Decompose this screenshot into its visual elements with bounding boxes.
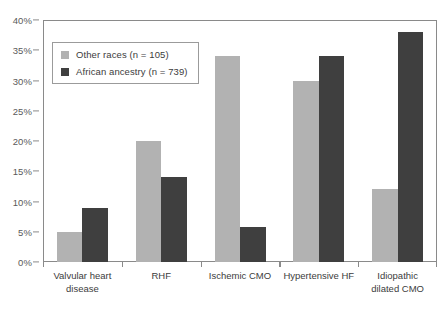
bar — [293, 81, 319, 263]
bar — [82, 208, 108, 262]
y-axis-tick — [33, 19, 39, 20]
legend-label-african-ancestry: African ancestry (n = 739) — [76, 66, 188, 77]
y-axis-label: 0% — [18, 257, 32, 268]
bar — [240, 227, 266, 262]
x-axis-tick — [279, 262, 280, 267]
y-axis-label: 10% — [13, 196, 32, 207]
y-axis-tick — [33, 140, 39, 141]
x-axis-tick — [201, 262, 202, 267]
y-axis-tick — [33, 171, 39, 172]
y-axis-tick — [33, 201, 39, 202]
y-axis-tick — [33, 50, 39, 51]
y-axis-label: 5% — [18, 226, 32, 237]
bar — [372, 189, 398, 262]
x-axis-tick — [43, 262, 44, 267]
y-axis-label: 40% — [13, 15, 32, 26]
y-axis-label: 25% — [13, 105, 32, 116]
legend-label-other-races: Other races (n = 105) — [76, 49, 169, 60]
x-axis-tick — [436, 262, 437, 267]
y-axis: 0%5%10%15%20%25%30%35%40% — [0, 0, 43, 313]
legend-swatch-african-ancestry — [61, 68, 69, 76]
y-axis-label: 35% — [13, 45, 32, 56]
bar — [136, 141, 162, 262]
bar-chart: 0%5%10%15%20%25%30%35%40% Valvular heart… — [0, 0, 447, 313]
bar — [161, 177, 187, 262]
bar — [215, 56, 241, 262]
x-axis-label: Idiopathic dilated CMO — [352, 270, 444, 295]
legend-item: African ancestry (n = 739) — [61, 66, 188, 77]
bar — [319, 56, 345, 262]
y-axis-label: 20% — [13, 136, 32, 147]
y-axis-tick — [33, 231, 39, 232]
y-axis-tick — [33, 80, 39, 81]
bar — [57, 232, 83, 262]
legend-item: Other races (n = 105) — [61, 49, 188, 60]
bar — [398, 32, 424, 262]
y-axis-tick — [33, 110, 39, 111]
x-axis-tick — [358, 262, 359, 267]
y-axis-label: 30% — [13, 75, 32, 86]
x-axis-tick — [122, 262, 123, 267]
legend-swatch-other-races — [61, 51, 69, 59]
x-axis: Valvular heart diseaseRHFIschemic CMOHyp… — [43, 262, 437, 313]
legend: Other races (n = 105) African ancestry (… — [52, 42, 199, 84]
y-axis-label: 15% — [13, 166, 32, 177]
y-axis-tick — [33, 261, 39, 262]
